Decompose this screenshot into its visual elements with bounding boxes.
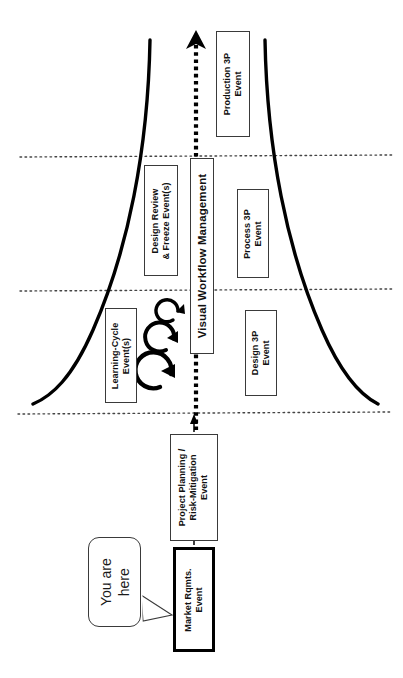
- box-market-rqmts-event-label: Market Rqmts. Event: [183, 568, 205, 631]
- label-line-1: Learning-Cycle: [110, 322, 120, 388]
- box-design-3p-event[interactable]: Design 3P Event: [245, 310, 277, 396]
- label-line-1: You are: [97, 558, 113, 606]
- label-line-1: Process 3P: [242, 209, 252, 259]
- label-line-2: Event: [261, 340, 271, 365]
- box-project-planning-event[interactable]: Project Planning / Risk-Mitigation Event: [170, 434, 218, 541]
- loop-arrow-large: [135, 352, 175, 388]
- box-design-review-freeze-event[interactable]: Design Review & Freeze Event(s): [144, 165, 178, 276]
- label-line-1: Design 3P: [250, 331, 260, 375]
- box-visual-workflow-management-label: Visual Workflow Management: [195, 174, 209, 339]
- label-line-2: Event: [194, 587, 204, 612]
- loop-arrows: [135, 300, 185, 388]
- loop-arrow-medium: [145, 322, 178, 351]
- box-visual-workflow-management[interactable]: Visual Workflow Management: [190, 158, 214, 354]
- label-line-2: Event(s): [121, 337, 131, 373]
- label-line-2: Event: [233, 72, 243, 97]
- label-line-3: Event: [199, 475, 209, 500]
- phase-divider-line-1: [20, 155, 392, 157]
- label-line-1: Design Review: [150, 188, 160, 253]
- label-line-1: Production 3P: [222, 53, 232, 115]
- callout-you-are-here[interactable]: You are here: [88, 537, 141, 627]
- box-process-3p-event[interactable]: Process 3P Event: [237, 189, 269, 278]
- phase-divider-line-3: [18, 412, 392, 414]
- box-process-3p-event-label: Process 3P Event: [242, 209, 264, 259]
- box-learning-cycle-event-label: Learning-Cycle Event(s): [110, 322, 132, 388]
- diagram-canvas: Production 3P Event Design Review & Free…: [0, 0, 403, 678]
- loop-arrow-small: [156, 300, 185, 322]
- box-learning-cycle-event[interactable]: Learning-Cycle Event(s): [105, 308, 137, 403]
- label-line-1: Project Planning /: [178, 449, 188, 527]
- box-project-planning-event-label: Project Planning / Risk-Mitigation Event: [178, 449, 211, 527]
- box-design-review-freeze-event-label: Design Review & Freeze Event(s): [150, 182, 172, 259]
- box-market-rqmts-event[interactable]: Market Rqmts. Event: [173, 547, 215, 652]
- callout-tail: [141, 589, 172, 627]
- label-line-2: Event: [253, 221, 263, 246]
- label-line-2: Risk-Mitigation: [189, 455, 199, 521]
- funnel-curve-right: [265, 40, 378, 404]
- label-line-2: & Freeze Event(s): [161, 182, 171, 259]
- callout-you-are-here-label: You are here: [96, 558, 132, 606]
- box-design-3p-event-label: Design 3P Event: [250, 331, 272, 375]
- box-production-3p-event[interactable]: Production 3P Event: [216, 31, 250, 137]
- box-production-3p-event-label: Production 3P Event: [222, 53, 244, 115]
- label-line-1: Market Rqmts.: [183, 568, 193, 631]
- label-line-2: here: [116, 568, 132, 596]
